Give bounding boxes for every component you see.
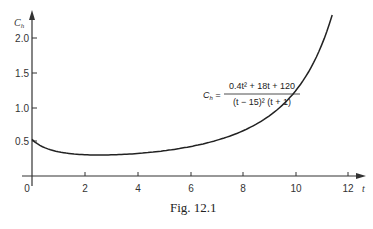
x-tick-label: 8 — [240, 183, 246, 194]
x-tick-label: 0 — [24, 183, 30, 194]
y-axis-arrow-icon — [29, 10, 35, 20]
x-tick-label: 4 — [135, 183, 141, 194]
y-tick-label: 0.5 — [15, 136, 29, 147]
x-tick-label: 6 — [188, 183, 194, 194]
x-tick-label: 12 — [342, 183, 354, 194]
figure-caption: Fig. 12.1 — [170, 200, 217, 216]
x-ticks: 0 2 4 6 8 10 12 — [24, 172, 354, 194]
y-axis-label: Ch — [14, 17, 25, 30]
x-axis-arrow-icon — [356, 173, 366, 179]
formula-numerator: 0.4t² + 18t + 120 — [229, 81, 295, 91]
x-tick-label: 10 — [290, 183, 302, 194]
y-ticks: 2.0 1.5 1.0 0.5 — [15, 33, 37, 147]
x-axis-label: t — [362, 183, 365, 194]
formula-lhs: Ch = — [203, 90, 221, 101]
formula-denominator: (t − 15)² (t + 1) — [233, 97, 291, 107]
chart-svg: Ch 2.0 1.5 1.0 0.5 0 2 4 6 8 10 12 t Ch … — [0, 0, 373, 229]
y-tick-label: 2.0 — [15, 33, 29, 44]
y-tick-label: 1.0 — [15, 103, 29, 114]
formula-annotation: Ch = 0.4t² + 18t + 120 (t − 15)² (t + 1) — [203, 81, 300, 107]
x-tick-label: 2 — [82, 183, 88, 194]
y-tick-label: 1.5 — [15, 68, 29, 79]
